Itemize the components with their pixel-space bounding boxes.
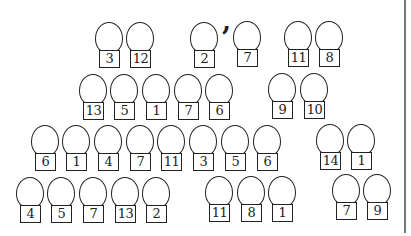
numbered-figure: 10 (300, 73, 331, 121)
numbered-figure: 7 (79, 177, 110, 225)
number-label: 1 (351, 152, 372, 170)
numbered-figure: 7 (174, 74, 205, 122)
number-label: 2 (194, 50, 215, 68)
numbered-figure: 7 (332, 174, 363, 222)
number-label: 11 (209, 204, 230, 222)
number-label: 4 (20, 205, 41, 223)
numbered-figure: 12 (126, 22, 157, 70)
number-label: 1 (272, 204, 293, 222)
number-label: 7 (178, 102, 199, 120)
number-label: 8 (241, 204, 262, 222)
numbered-figure: 5 (110, 74, 141, 122)
number-label: 6 (209, 102, 230, 120)
numbered-figure: 11 (205, 176, 236, 224)
number-label: 10 (304, 101, 325, 119)
numbered-figure: 13 (111, 177, 142, 225)
numbered-figure: 1 (268, 176, 299, 224)
numbered-figure: 4 (16, 177, 47, 225)
number-label: 11 (288, 49, 309, 67)
numbered-figure: 13 (79, 74, 110, 122)
numbered-figure: 9 (268, 73, 299, 121)
numbered-figure: 8 (315, 21, 346, 69)
numbered-figure: 6 (31, 125, 62, 173)
number-label: 7 (237, 49, 258, 67)
number-label: 11 (161, 153, 182, 171)
number-label: 13 (83, 102, 104, 120)
numbered-figure: 3 (189, 125, 220, 173)
numbered-figure: 5 (221, 125, 252, 173)
numbered-figure: 3 (95, 22, 126, 70)
number-label: 8 (319, 49, 340, 67)
number-label: 9 (367, 202, 388, 220)
numbered-figure: 2 (190, 22, 221, 70)
numbered-figure: 1 (347, 124, 378, 172)
number-label: 5 (51, 205, 72, 223)
numbered-figure: 2 (142, 177, 173, 225)
number-label: 3 (193, 153, 214, 171)
number-label: 1 (146, 102, 167, 120)
number-label: 5 (225, 153, 246, 171)
number-label: 7 (336, 202, 357, 220)
numbered-figure: 7 (126, 125, 157, 173)
numbered-figure: 11 (284, 21, 315, 69)
numbered-figure: 1 (62, 125, 93, 173)
number-label: 9 (272, 101, 293, 119)
numbered-figure: 14 (316, 124, 347, 172)
number-label: 13 (115, 205, 136, 223)
numbered-figure: 4 (94, 125, 125, 173)
number-label: 1 (66, 153, 87, 171)
numbered-figure: 7 (233, 21, 264, 69)
number-label: 6 (35, 153, 56, 171)
comma-separator: , (222, 8, 231, 34)
numbered-figure: 6 (205, 74, 236, 122)
number-label: 5 (114, 102, 135, 120)
number-label: 14 (320, 152, 341, 170)
number-label: 4 (98, 153, 119, 171)
number-label: 7 (83, 205, 104, 223)
numbered-figure: 11 (157, 125, 188, 173)
number-label: 6 (257, 153, 278, 171)
number-label: 3 (99, 50, 120, 68)
number-label: 7 (130, 153, 151, 171)
numbered-figure: 5 (47, 177, 78, 225)
right-border-line (404, 0, 406, 233)
numbered-figure: 9 (363, 174, 394, 222)
numbered-figure: 8 (237, 176, 268, 224)
numbered-figure: 6 (253, 125, 284, 173)
number-label: 12 (130, 50, 151, 68)
number-label: 2 (146, 205, 167, 223)
numbered-figure: 1 (142, 74, 173, 122)
